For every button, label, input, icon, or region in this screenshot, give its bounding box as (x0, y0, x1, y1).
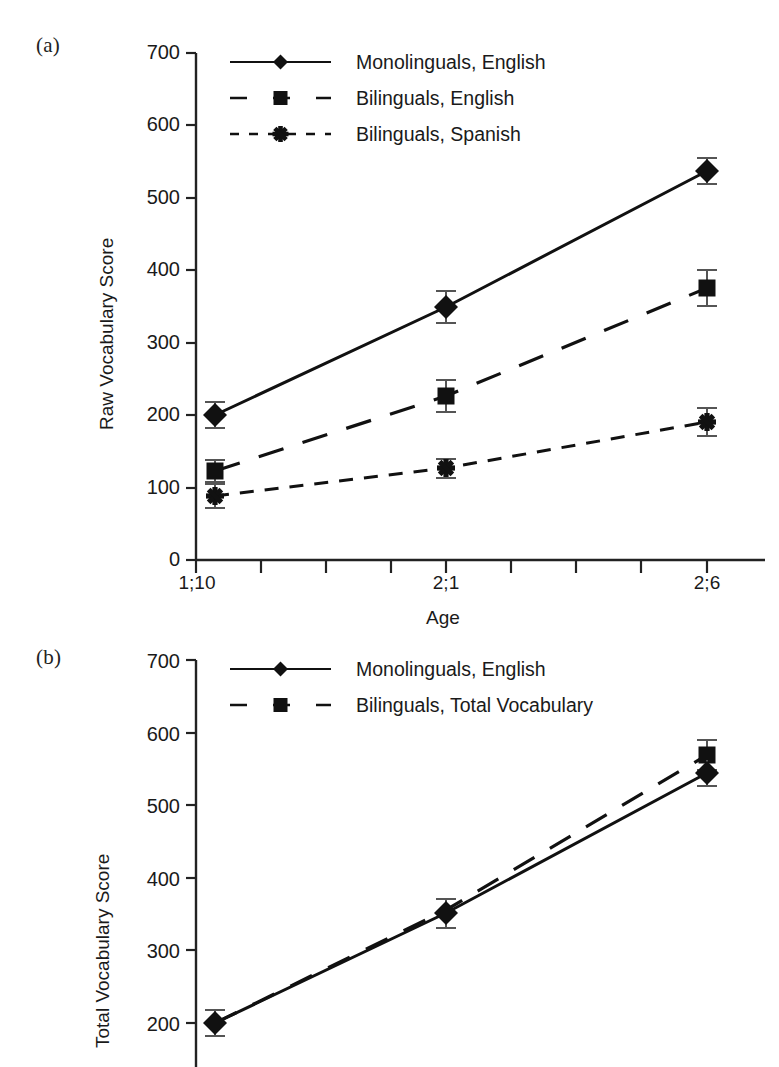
axes-b (186, 660, 196, 1067)
series-b-bilinguals-total (215, 740, 717, 1023)
series-b-monolinguals-english (203, 760, 719, 1036)
plot-area-b (0, 0, 779, 1067)
figure-container: (a) Raw Vocabulary Score Age 700 600 500… (0, 0, 779, 1067)
